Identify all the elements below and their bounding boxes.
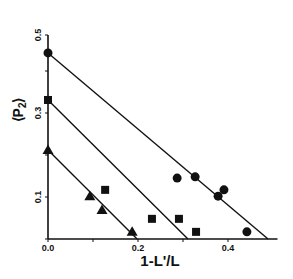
fit-line-squares: [48, 100, 188, 239]
y-label-main: P: [10, 108, 26, 117]
square-marker: [148, 215, 156, 223]
fit-lines: [48, 53, 268, 239]
triangle-marker: [97, 205, 108, 215]
x-tick-label: 0.0: [42, 243, 55, 253]
scatter-chart: 0.00.20.40.10.30.5 1-L'/L ⟨P2⟩: [0, 0, 293, 279]
square-marker: [101, 186, 109, 194]
circle-marker: [173, 174, 182, 183]
y-tick-label: 0.3: [33, 107, 43, 120]
svg-text:⟨P2⟩: ⟨P2⟩: [10, 98, 28, 123]
fit-line-circles: [48, 53, 268, 239]
square-marker: [192, 228, 200, 236]
circle-marker: [44, 48, 53, 57]
y-tick-label: 0.1: [33, 191, 43, 204]
x-axis-label: 1-L'/L: [140, 252, 179, 269]
y-tick-label: 0.5: [33, 29, 43, 42]
circle-marker: [242, 227, 251, 236]
data-points: [43, 48, 252, 236]
circle-marker: [191, 172, 200, 181]
fit-line-triangles: [48, 150, 137, 239]
angle-bracket-right: ⟩: [10, 98, 26, 103]
y-axis-label: ⟨P2⟩: [10, 98, 28, 123]
square-marker: [44, 96, 52, 104]
triangle-marker: [43, 144, 54, 154]
x-tick-label: 0.4: [222, 243, 235, 253]
square-marker: [175, 215, 183, 223]
circle-marker: [219, 185, 228, 194]
